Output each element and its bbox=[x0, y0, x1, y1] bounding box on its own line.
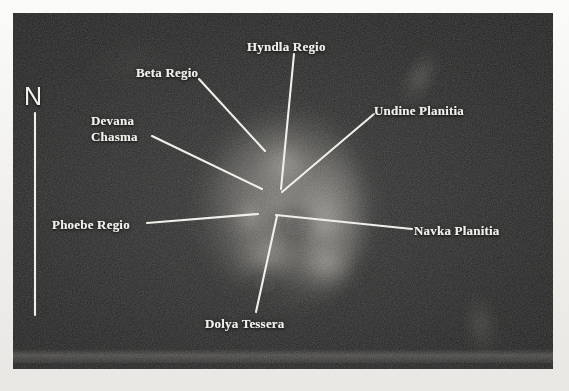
map-label-beta-regio: Beta Regio bbox=[136, 66, 198, 80]
map-label-navka-planitia: Navka Planitia bbox=[414, 224, 500, 238]
figure-root: N Beta Regio Hyndla Regio Undine Planiti… bbox=[0, 0, 569, 391]
map-label-phoebe-regio: Phoebe Regio bbox=[52, 218, 130, 232]
map-label-devana-chasma: Devana Chasma bbox=[91, 113, 138, 145]
compass-north-line bbox=[0, 0, 569, 391]
map-label-hyndla-regio: Hyndla Regio bbox=[247, 40, 326, 54]
map-label-undine-planitia: Undine Planitia bbox=[374, 104, 464, 118]
annotation-overlay: N Beta Regio Hyndla Regio Undine Planiti… bbox=[0, 0, 569, 391]
map-label-dolya-tessera: Dolya Tessera bbox=[205, 317, 285, 331]
